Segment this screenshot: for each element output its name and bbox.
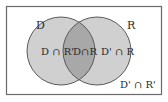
region-d-only-label: D ∩ R' (41, 46, 74, 57)
region-intersection-label: D∩R (73, 46, 97, 57)
region-r-only-label: D' ∩ R (101, 46, 135, 57)
venn-diagram: D R D ∩ R' D∩R D' ∩ R D' ∩ R' (0, 0, 168, 102)
region-outside-label: D' ∩ R' (120, 79, 156, 90)
set-d-label: D (36, 19, 45, 32)
set-r-label: R (127, 19, 136, 32)
